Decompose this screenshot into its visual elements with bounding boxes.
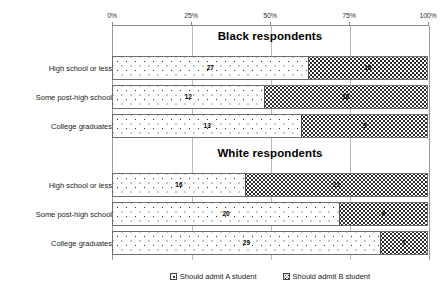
x-axis-tickmark xyxy=(191,22,192,26)
panel-title: White respondents xyxy=(112,147,428,159)
chart-legend: Should admit A studentShould admit B stu… xyxy=(112,268,428,284)
legend-item[interactable]: Should admit A student xyxy=(170,272,257,281)
category-label: High school or less xyxy=(0,64,112,73)
category-label: College graduates xyxy=(0,239,112,248)
x-axis-tick-label: 25% xyxy=(184,12,197,19)
category-label: College graduates xyxy=(0,122,112,131)
bar-row: 208 xyxy=(112,202,428,226)
category-label: Some post-high school xyxy=(0,93,112,102)
legend-label: Should admit B student xyxy=(293,272,371,281)
x-axis-tickmark xyxy=(349,22,350,26)
bar-segment-value: 29 xyxy=(242,240,250,247)
bar-segment-a: 13 xyxy=(113,115,301,137)
bar-segment-value: 16 xyxy=(175,182,183,189)
bar-segment-value: 27 xyxy=(206,65,214,72)
bar-segment-a: 16 xyxy=(113,174,245,196)
bar-row: 2716 xyxy=(112,56,428,80)
bar-segment-value: 18 xyxy=(342,94,350,101)
legend-swatch-icon xyxy=(283,273,290,280)
legend-swatch-icon xyxy=(170,273,177,280)
bar-row: 1621 xyxy=(112,173,428,197)
bar-segment-b: 18 xyxy=(264,86,427,108)
bar-segment-value: 20 xyxy=(222,211,230,218)
bar-segment-a: 27 xyxy=(113,57,308,79)
bar-segment-b: 9 xyxy=(301,115,427,137)
bar-segment-value: 8 xyxy=(381,211,386,218)
bar-segment-b: 21 xyxy=(245,174,427,196)
x-axis-tick-label: 75% xyxy=(342,12,355,19)
bar-segment-value: 21 xyxy=(332,182,340,189)
x-axis-tick-label: 0% xyxy=(107,12,117,19)
bar-segment-b: 7 xyxy=(380,232,427,254)
category-label: High school or less xyxy=(0,181,112,190)
bar-segment-a: 12 xyxy=(113,86,264,108)
bar-segment-b: 16 xyxy=(308,57,427,79)
bar-segment-value: 16 xyxy=(364,65,372,72)
bar-segment-b: 8 xyxy=(339,203,427,225)
stacked-bar-chart: 0%25%50%75%100% Black respondents2716Hig… xyxy=(0,0,445,292)
x-axis-tick-labels: 0%25%50%75%100% xyxy=(0,12,445,24)
bar-segment-value: 7 xyxy=(402,240,407,247)
x-axis-tick-label: 100% xyxy=(419,12,436,19)
bar-row: 297 xyxy=(112,231,428,255)
bar-segment-value: 12 xyxy=(184,94,192,101)
panel-title: Black respondents xyxy=(112,30,428,42)
category-label: Some post-high school xyxy=(0,210,112,219)
bar-row: 139 xyxy=(112,114,428,138)
bar-segment-value: 13 xyxy=(203,123,211,130)
x-axis-tickmark xyxy=(270,22,271,26)
legend-item[interactable]: Should admit B student xyxy=(283,272,371,281)
x-axis-tick-label: 50% xyxy=(263,12,276,19)
x-axis-tickmark xyxy=(428,22,429,26)
legend-label: Should admit A student xyxy=(180,272,257,281)
bar-segment-a: 20 xyxy=(113,203,339,225)
bar-segment-a: 29 xyxy=(113,232,380,254)
bar-row: 1218 xyxy=(112,85,428,109)
bar-segment-value: 9 xyxy=(362,123,367,130)
x-axis-tickmark xyxy=(112,22,113,26)
